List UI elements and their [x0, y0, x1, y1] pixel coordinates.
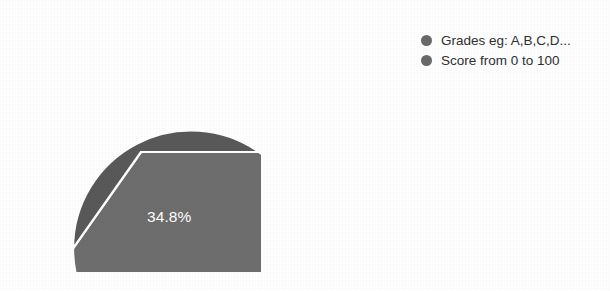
legend-swatch-icon: [421, 35, 432, 46]
legend-item-grades[interactable]: Grades eg: A,B,C,D...: [421, 31, 606, 50]
pie-svg: 65.2% 34.8%: [21, 32, 261, 272]
pie-chart: 65.2% 34.8% Grades eg: A,B,C,D... Score …: [0, 0, 610, 291]
legend-swatch-icon: [421, 55, 432, 66]
slice-label-grades: 65.2%: [100, 75, 145, 92]
chart-legend: Grades eg: A,B,C,D... Score from 0 to 10…: [421, 31, 606, 71]
legend-item-label: Score from 0 to 100: [441, 51, 560, 70]
slice-label-score: 34.8%: [147, 208, 192, 225]
legend-item-label: Grades eg: A,B,C,D...: [441, 31, 571, 50]
pie-graphic: 65.2% 34.8%: [21, 32, 261, 272]
legend-item-score[interactable]: Score from 0 to 100: [421, 51, 606, 70]
